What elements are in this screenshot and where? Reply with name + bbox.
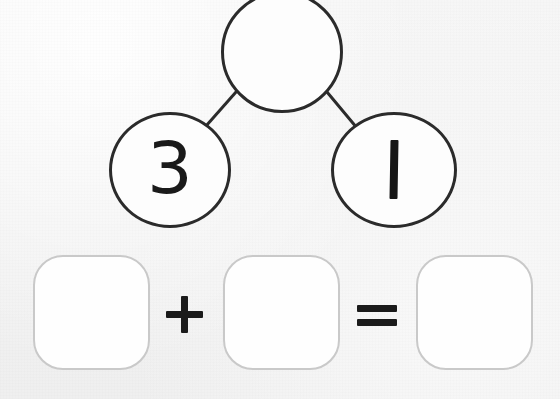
number-bond-part-left-circle[interactable]: 3 xyxy=(109,112,231,228)
equation-sum-box[interactable] xyxy=(416,255,533,370)
connector-total-to-right xyxy=(327,92,357,128)
plus-sign-label: + xyxy=(166,296,167,297)
number-bond-part-right-circle[interactable]: 1 xyxy=(331,112,457,228)
connector-total-to-left xyxy=(206,92,236,126)
digit-one-stroke-icon xyxy=(389,139,398,198)
equation-row xyxy=(0,255,560,375)
equation-addend-1-box[interactable] xyxy=(33,255,150,370)
equation-addend-1-value xyxy=(35,257,36,258)
equation-addend-2-box[interactable] xyxy=(223,255,340,370)
equation-addend-2-value xyxy=(225,257,226,258)
equation-sum-value xyxy=(418,257,419,258)
equals-sign-icon: = xyxy=(357,305,397,326)
number-bond-part-left-value: 3 xyxy=(147,132,193,204)
plus-sign-icon: + xyxy=(166,296,203,333)
worksheet-canvas: 3 1 + = xyxy=(0,0,560,399)
equals-sign-label: = xyxy=(357,305,358,306)
